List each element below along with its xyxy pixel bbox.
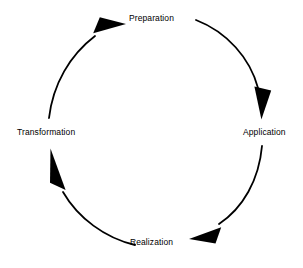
arrow-realization-to-transformation xyxy=(50,149,135,246)
cycle-diagram-canvas: Preparation Application Realization Tran… xyxy=(0,0,303,268)
node-label-realization: Realization xyxy=(0,237,303,248)
arrowhead-up-icon xyxy=(50,149,66,191)
arrow-transformation-to-preparation xyxy=(49,17,126,118)
arc-preparation-to-application xyxy=(196,20,258,88)
node-label-preparation: Preparation xyxy=(0,13,303,24)
arrow-application-to-realization xyxy=(189,146,262,244)
arc-transformation-to-preparation xyxy=(49,36,95,118)
arc-application-to-realization xyxy=(219,146,262,224)
node-label-application: Application xyxy=(243,127,286,138)
node-label-transformation: Transformation xyxy=(17,127,75,138)
arrowhead-down-icon xyxy=(254,87,271,120)
arrow-preparation-to-application xyxy=(196,20,271,120)
